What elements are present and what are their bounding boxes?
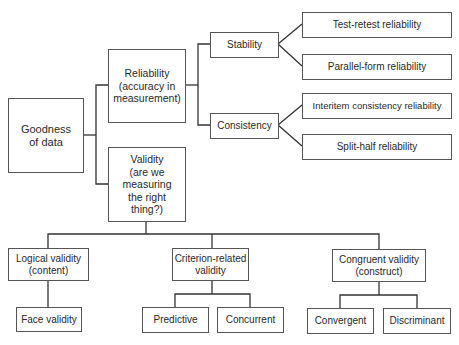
connector-stability <box>278 24 302 66</box>
node-face-validity: Face validity <box>16 307 82 332</box>
node-validity: Validity (are we measuring the right thi… <box>108 147 186 222</box>
connector-validity-bar <box>48 234 379 249</box>
node-congruent-validity: Congruent validity (construct) <box>332 249 426 282</box>
node-convergent: Convergent <box>307 308 374 334</box>
node-predictive: Predictive <box>142 307 209 333</box>
connector-congruent-branch <box>340 295 417 308</box>
node-goodness-of-data: Goodness of data <box>8 98 84 173</box>
node-stability: Stability <box>210 32 279 58</box>
node-reliability: Reliability (accuracy in measurement) <box>108 49 186 123</box>
node-logical-validity: Logical validity (content) <box>8 248 89 281</box>
node-interitem-consistency-reliability: Interitem consistency reliability <box>302 93 452 119</box>
node-concurrent: Concurrent <box>217 307 284 333</box>
connector-criterion-branch <box>175 294 250 307</box>
connector-consistency <box>278 105 302 146</box>
connector-goodness-branch <box>96 85 108 184</box>
node-discriminant: Discriminant <box>383 308 451 334</box>
node-test-retest-reliability: Test-retest reliability <box>302 12 452 38</box>
node-criterion-related-validity: Criterion-related validity <box>172 248 249 281</box>
node-consistency: Consistency <box>210 113 279 139</box>
node-parallel-form-reliability: Parallel-form reliability <box>302 54 452 80</box>
connector-reliability-branch <box>198 44 210 125</box>
node-split-half-reliability: Split-half reliability <box>302 134 452 160</box>
